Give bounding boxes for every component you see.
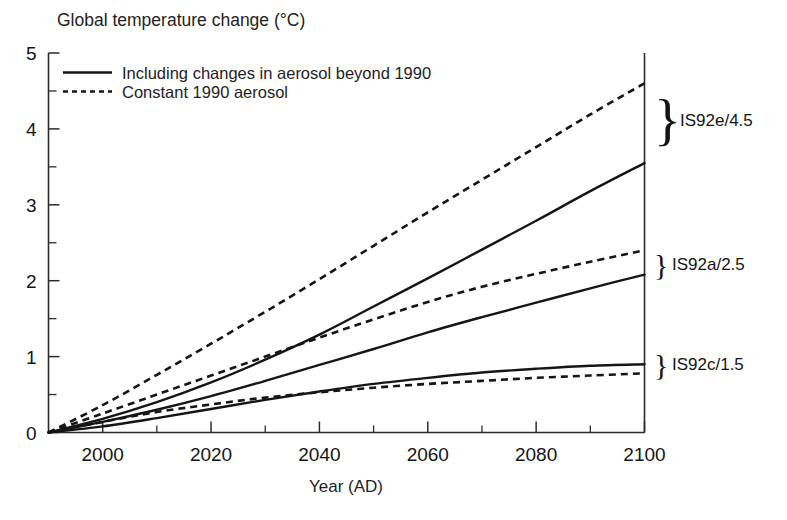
y-tick-label: 2	[26, 271, 37, 292]
brace-is92e-icon: }	[654, 89, 681, 151]
chart-title: Global temperature change (°C)	[57, 10, 305, 30]
x-tick-label: 2080	[515, 444, 557, 465]
brace-is92a-icon: }	[654, 248, 668, 281]
x-tick-label: 2100	[623, 444, 665, 465]
annotation-is92e: IS92e/4.5	[680, 111, 753, 130]
legend-label-solid: Including changes in aerosol beyond 1990	[122, 64, 431, 82]
x-tick-label: 2040	[298, 444, 340, 465]
chart-figure: Global temperature change (°C) 012345 20…	[0, 0, 787, 520]
temperature-projection-chart: Global temperature change (°C) 012345 20…	[0, 0, 787, 520]
annotation-is92c: IS92c/1.5	[672, 355, 744, 374]
y-tick-label: 5	[26, 43, 37, 64]
x-tick-label: 2060	[407, 444, 449, 465]
brace-is92c-icon: }	[654, 348, 668, 381]
y-tick-label: 3	[26, 195, 37, 216]
y-tick-label: 4	[26, 119, 37, 140]
y-tick-label: 0	[26, 423, 37, 444]
x-tick-label: 2000	[82, 444, 124, 465]
legend-label-dashed: Constant 1990 aerosol	[122, 83, 288, 101]
y-tick-label: 1	[26, 347, 37, 368]
annotation-is92a: IS92a/2.5	[672, 255, 745, 274]
x-tick-label: 2020	[190, 444, 232, 465]
x-axis-label: Year (AD)	[309, 477, 383, 496]
